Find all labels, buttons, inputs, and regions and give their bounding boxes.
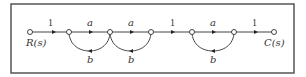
feedback-arc-n3-n2 — [69, 34, 110, 51]
gain-label-5: a — [210, 17, 216, 28]
node-4 — [149, 30, 154, 35]
input-label: R(s) — [25, 37, 47, 48]
feedback-label-3: b — [210, 54, 216, 65]
gain-label-4: 1 — [170, 17, 175, 28]
arrow-right-icon — [171, 30, 175, 34]
arrow-left-icon — [211, 49, 215, 53]
feedback-arrowheads — [88, 49, 215, 53]
arrow-left-icon — [88, 49, 92, 53]
node-6 — [232, 30, 237, 35]
node-5 — [190, 30, 195, 35]
arrow-right-icon — [130, 30, 134, 34]
node-2 — [67, 30, 72, 35]
node-3 — [108, 30, 113, 35]
gain-label-1: 1 — [48, 17, 53, 28]
gain-label-6: 1 — [252, 17, 257, 28]
arrow-left-icon — [129, 49, 133, 53]
feedback-branches — [69, 34, 234, 51]
arrow-right-icon — [212, 30, 216, 34]
arrow-right-icon — [52, 30, 56, 34]
diagram-frame — [11, 4, 294, 73]
feedback-arc-n4-n3 — [110, 34, 151, 51]
output-label: C(s) — [264, 37, 285, 48]
node-output — [272, 30, 277, 35]
signal-flow-graph: 1 a a 1 a 1 b b b R(s) C(s) — [0, 0, 306, 77]
gain-label-3: a — [128, 17, 134, 28]
node-input — [28, 30, 33, 35]
feedback-label-2: b — [128, 54, 134, 65]
feedback-arc-n6-n5 — [192, 34, 234, 51]
feedback-label-1: b — [87, 54, 93, 65]
gain-label-2: a — [87, 17, 93, 28]
arrow-right-icon — [89, 30, 93, 34]
arrow-right-icon — [254, 30, 258, 34]
